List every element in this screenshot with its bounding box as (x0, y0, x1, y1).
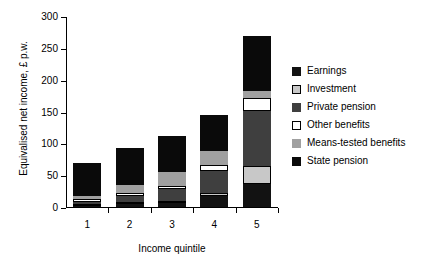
legend-item-label: Means-tested benefits (307, 138, 405, 148)
bar-segment-state-pension (116, 148, 144, 185)
legend-item-label: Investment (307, 84, 356, 94)
legend-item-label: Private pension (307, 102, 376, 112)
legend-swatch-icon (292, 121, 301, 130)
bar-segment-private-pension (200, 171, 228, 193)
bar-quintile-2 (116, 148, 144, 207)
y-tick-200 (61, 81, 66, 82)
legend-swatch-icon (292, 139, 301, 148)
legend-item-label: State pension (307, 156, 368, 166)
legend-item-label: Earnings (307, 66, 346, 76)
bar-segment-private-pension (158, 189, 186, 200)
legend: EarningsInvestmentPrivate pensionOther b… (292, 62, 405, 170)
bar-quintile-4 (200, 115, 228, 207)
bar-segment-state-pension (158, 136, 186, 172)
y-tick-label-0: 0 (52, 203, 58, 213)
y-tick-100 (61, 144, 66, 145)
x-axis-title: Income quintile (66, 243, 278, 254)
bar-segment-earnings (116, 204, 144, 207)
bar-segment-means-tested-benefits (200, 151, 228, 165)
bar-segment-other-benefits (243, 98, 271, 111)
y-axis-line (66, 17, 67, 208)
legend-item-other-benefits[interactable]: Other benefits (292, 116, 405, 134)
y-axis-title: Equivalised net income, £ p.w. (18, 11, 29, 207)
x-tick-label-3: 3 (169, 220, 175, 230)
y-tick-250 (61, 49, 66, 50)
y-tick-label-250: 250 (41, 44, 58, 54)
y-tick-0 (61, 208, 66, 209)
x-tick-label-4: 4 (212, 220, 218, 230)
legend-item-state-pension[interactable]: State pension (292, 152, 405, 170)
x-tick-label-1: 1 (84, 220, 90, 230)
plot-area: 050100150200250300 12345 (66, 17, 278, 208)
bar-quintile-1 (73, 163, 101, 207)
bar-segment-state-pension (200, 115, 228, 151)
legend-item-earnings[interactable]: Earnings (292, 62, 405, 80)
bar-segment-earnings (73, 206, 101, 207)
y-tick-label-200: 200 (41, 76, 58, 86)
y-tick-50 (61, 176, 66, 177)
legend-item-label: Other benefits (307, 120, 370, 130)
y-tick-label-300: 300 (41, 12, 58, 22)
bar-segment-earnings (158, 203, 186, 207)
legend-item-private-pension[interactable]: Private pension (292, 98, 405, 116)
bar-segment-investment (243, 166, 271, 184)
bar-segment-private-pension (243, 111, 271, 166)
x-tick-5 (278, 208, 279, 213)
stacked-bar-chart: Equivalised net income, £ p.w. 050100150… (0, 0, 443, 266)
x-tick-3 (193, 208, 194, 213)
bar-quintile-3 (158, 136, 186, 207)
legend-swatch-icon (292, 67, 301, 76)
y-tick-150 (61, 113, 66, 114)
bar-segment-earnings (200, 196, 228, 207)
bar-segment-earnings (243, 184, 271, 207)
legend-swatch-icon (292, 85, 301, 94)
x-axis-line (66, 207, 278, 208)
y-tick-label-100: 100 (41, 139, 58, 149)
x-tick-1 (108, 208, 109, 213)
bar-segment-means-tested-benefits (243, 91, 271, 98)
y-tick-label-150: 150 (41, 108, 58, 118)
x-tick-2 (151, 208, 152, 213)
y-tick-label-50: 50 (47, 171, 58, 181)
y-tick-300 (61, 17, 66, 18)
bar-segment-means-tested-benefits (116, 185, 144, 193)
bar-quintile-5 (243, 36, 271, 207)
legend-item-means-tested-benefits[interactable]: Means-tested benefits (292, 134, 405, 152)
bar-segment-state-pension (73, 163, 101, 196)
bar-segment-state-pension (243, 36, 271, 90)
legend-swatch-icon (292, 103, 301, 112)
x-tick-4 (236, 208, 237, 213)
legend-swatch-icon (292, 157, 301, 166)
bar-segment-means-tested-benefits (158, 172, 186, 186)
x-tick-label-5: 5 (254, 220, 260, 230)
legend-item-investment[interactable]: Investment (292, 80, 405, 98)
x-tick-label-2: 2 (127, 220, 133, 230)
